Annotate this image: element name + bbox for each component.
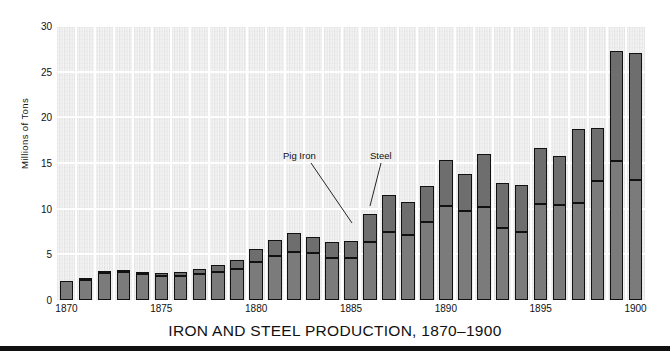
bar-1899 (610, 51, 624, 300)
bar-1891 (458, 174, 472, 300)
x-axis-ticks: 1870187518801885189018951900 (0, 303, 670, 317)
bar-segment-pig-iron (230, 269, 244, 300)
bar-segment-steel (382, 195, 396, 232)
bar-segment-steel (572, 129, 586, 203)
y-tick-label: 25 (18, 66, 52, 77)
bar-1895 (534, 148, 548, 300)
bar-1871 (79, 279, 93, 300)
x-tick-label: 1890 (435, 303, 457, 314)
bar-1896 (553, 156, 567, 300)
plot-area (57, 26, 645, 300)
bar-segment-pig-iron (287, 252, 301, 300)
bar-1870 (60, 281, 74, 300)
bar-segment-pig-iron (268, 256, 282, 300)
bar-segment-pig-iron (572, 203, 586, 300)
bar-segment-pig-iron (325, 258, 339, 300)
bar-segment-pig-iron (439, 206, 453, 300)
bar-segment-steel (477, 154, 491, 207)
bar-segment-steel (306, 237, 320, 253)
bar-1874 (136, 273, 150, 300)
annotation-steel: Steel (370, 150, 392, 161)
bar-segment-pig-iron (496, 228, 510, 300)
bar-segment-steel (515, 185, 529, 232)
bar-segment-steel (230, 260, 244, 269)
bar-1872 (98, 271, 112, 300)
title-underline-rule (0, 346, 670, 351)
bar-segment-pig-iron (193, 274, 207, 300)
bar-1898 (591, 128, 605, 300)
bar-1897 (572, 129, 586, 300)
bar-1881 (268, 240, 282, 300)
gridline-horizontal (57, 116, 645, 118)
bar-1882 (287, 233, 301, 300)
bar-1888 (401, 202, 415, 300)
bar-segment-pig-iron (155, 276, 169, 300)
bar-1892 (477, 154, 491, 300)
bar-1887 (382, 195, 396, 300)
bar-1884 (325, 242, 339, 300)
bar-segment-pig-iron (136, 274, 150, 300)
bar-1886 (363, 214, 377, 300)
y-tick-label: 20 (18, 112, 52, 123)
bar-segment-steel (401, 202, 415, 235)
bar-1873 (117, 271, 131, 300)
bar-segment-steel (610, 51, 624, 162)
y-tick-label: 30 (18, 21, 52, 32)
bar-segment-steel (534, 148, 548, 204)
bar-segment-pig-iron (382, 232, 396, 301)
bar-segment-pig-iron (60, 281, 74, 300)
gridline-horizontal (57, 26, 645, 27)
bar-segment-pig-iron (306, 253, 320, 300)
bar-segment-steel (287, 233, 301, 251)
gridline-horizontal (57, 71, 645, 73)
bar-segment-pig-iron (458, 211, 472, 301)
bar-1893 (496, 183, 510, 300)
x-tick-label: 1880 (245, 303, 267, 314)
bar-segment-pig-iron (610, 161, 624, 300)
bar-segment-steel (591, 128, 605, 181)
bar-1889 (420, 186, 434, 300)
bar-segment-pig-iron (344, 258, 358, 300)
bar-segment-steel (211, 265, 225, 271)
y-tick-label: 15 (18, 158, 52, 169)
bar-1883 (306, 237, 320, 300)
bar-segment-steel (629, 53, 643, 180)
bar-segment-pig-iron (174, 276, 188, 300)
bar-segment-steel (155, 273, 169, 277)
x-tick-label: 1885 (340, 303, 362, 314)
bar-1877 (193, 269, 207, 300)
bar-segment-pig-iron (477, 207, 491, 300)
chart-figure: Millions of Tons 051015202530 Pig Iron S… (0, 0, 670, 361)
bar-segment-steel (344, 241, 358, 258)
bar-1875 (155, 273, 169, 300)
bar-segment-pig-iron (117, 272, 131, 300)
bar-segment-pig-iron (591, 181, 605, 300)
bar-segment-pig-iron (515, 232, 529, 301)
bar-segment-pig-iron (363, 242, 377, 300)
bar-segment-steel (325, 242, 339, 258)
bar-segment-steel (249, 249, 263, 262)
bar-segment-steel (439, 160, 453, 206)
x-tick-label: 1875 (150, 303, 172, 314)
bar-segment-steel (193, 269, 207, 274)
bar-1880 (249, 249, 263, 300)
bar-1890 (439, 160, 453, 300)
annotation-pig-iron: Pig Iron (283, 150, 316, 161)
bar-1894 (515, 185, 529, 300)
bar-1900 (629, 53, 643, 300)
bar-1878 (211, 265, 225, 300)
bar-segment-steel (268, 240, 282, 256)
chart-title: IRON AND STEEL PRODUCTION, 1870–1900 (0, 322, 670, 340)
bar-segment-pig-iron (629, 180, 643, 300)
x-tick-label: 1870 (55, 303, 77, 314)
bar-segment-steel (458, 174, 472, 211)
bar-segment-pig-iron (79, 280, 93, 300)
y-tick-label: 5 (18, 249, 52, 260)
bar-segment-pig-iron (211, 272, 225, 300)
y-tick-label: 10 (18, 203, 52, 214)
bar-1879 (230, 260, 244, 300)
bar-segment-pig-iron (401, 235, 415, 300)
x-tick-label: 1900 (624, 303, 646, 314)
bar-segment-steel (136, 272, 150, 274)
bar-segment-steel (553, 156, 567, 205)
